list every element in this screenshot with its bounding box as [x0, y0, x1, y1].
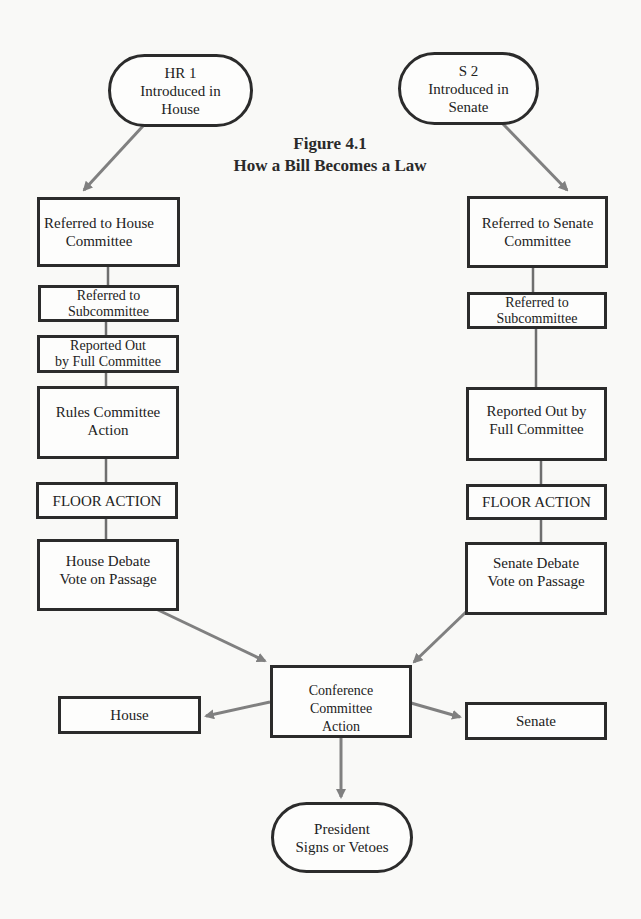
node-house-debate: House Debate Vote on Passage: [37, 539, 179, 611]
node-senate-debate: Senate Debate Vote on Passage: [465, 542, 607, 615]
arrow-hr1-to-committee: [84, 126, 143, 190]
node-label: FLOOR ACTION: [482, 493, 591, 511]
arrow-conference-to-house: [206, 702, 270, 716]
node-label: Senate Debate Vote on Passage: [487, 554, 584, 590]
node-label: FLOOR ACTION: [53, 492, 162, 510]
node-s2-introduced: S 2 Introduced in Senate: [398, 52, 539, 125]
node-house-subcommittee: Referred to Subcommittee: [38, 285, 179, 322]
node-label: Referred to Subcommittee: [497, 295, 578, 327]
node-label: Senate: [516, 712, 556, 730]
node-senate-final: Senate: [465, 702, 607, 740]
node-label: Referred to Subcommittee: [68, 288, 149, 320]
node-house-floor-action: FLOOR ACTION: [36, 482, 178, 519]
node-rules-committee: Rules Committee Action: [37, 386, 179, 459]
node-house-final: House: [58, 696, 201, 734]
figure-number: Figure 4.1: [180, 134, 480, 154]
arrow-house-debate-to-conference: [156, 609, 265, 661]
node-label: House: [110, 706, 148, 724]
node-label: Referred to Senate Committee: [482, 214, 594, 250]
arrow-s2-to-committee: [503, 124, 567, 190]
node-label: President Signs or Vetoes: [295, 820, 388, 856]
arrow-senate-debate-to-conference: [414, 612, 466, 662]
node-hr1-introduced: HR 1 Introduced in House: [108, 54, 253, 127]
node-label: Reported Out by Full Committee: [487, 402, 587, 438]
node-president: President Signs or Vetoes: [271, 802, 413, 873]
node-label: HR 1 Introduced in House: [140, 64, 220, 118]
node-label: Rules Committee Action: [56, 403, 161, 439]
node-conference-committee: Conference Committee Action: [270, 665, 412, 738]
node-label: Conference Committee Action: [277, 682, 405, 736]
node-senate-subcommittee: Referred to Subcommittee: [467, 292, 607, 329]
arrow-conference-to-senate: [411, 703, 460, 717]
node-senate-floor-action: FLOOR ACTION: [466, 484, 607, 520]
node-house-committee: Referred to House Committee: [37, 197, 180, 267]
figure-title: How a Bill Becomes a Law: [180, 156, 480, 176]
node-label: House Debate Vote on Passage: [59, 552, 156, 588]
node-senate-reported-out: Reported Out by Full Committee: [466, 387, 607, 461]
node-label: S 2 Introduced in Senate: [428, 62, 508, 116]
node-label: Referred to House Committee: [44, 214, 154, 250]
node-label: Reported Out by Full Committee: [55, 338, 161, 370]
node-house-reported-out: Reported Out by Full Committee: [37, 335, 179, 373]
bill-to-law-flowchart: Figure 4.1 How a Bill Becomes a Law HR 1…: [0, 0, 641, 919]
node-senate-committee: Referred to Senate Committee: [467, 196, 608, 268]
